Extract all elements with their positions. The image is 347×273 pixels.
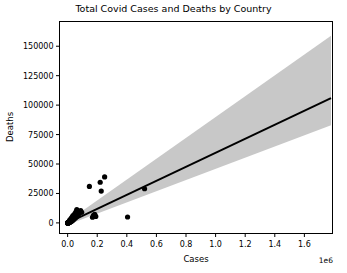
scatter-plot: 0.00.20.40.60.81.01.21.41.6 025000500007… [0,0,347,273]
x-axis-ticks: 0.00.20.40.60.81.01.21.41.6 [61,234,310,249]
y-tick-label: 150000 [23,42,54,51]
scatter-point [87,184,92,189]
y-axis-label: Deaths [5,111,15,142]
scatter-point [125,214,130,219]
x-tick-label: 0.0 [61,240,74,249]
scatter-point [102,174,107,179]
y-axis-ticks: 0250005000075000100000125000150000 [23,42,60,228]
y-tick-label: 100000 [23,101,54,110]
scatter-point [98,180,103,185]
x-tick-label: 1.4 [268,240,281,249]
y-tick-label: 25000 [28,189,53,198]
confidence-band-area [68,36,331,225]
chart-figure: Total Covid Cases and Deaths by Country … [0,0,347,273]
x-tick-label: 0.6 [150,240,163,249]
regression-line [68,98,331,223]
scatter-point [67,218,72,223]
scatter-point [99,189,104,194]
x-tick-label: 0.4 [120,240,133,249]
scatter-point [90,215,95,220]
y-tick-label: 125000 [23,72,54,81]
x-tick-label: 1.0 [209,240,222,249]
x-tick-label: 0.8 [180,240,193,249]
scatter-point [142,186,147,191]
x-tick-label: 1.6 [298,240,311,249]
y-tick-label: 50000 [28,160,53,169]
x-axis-label: Cases [183,254,209,264]
x-tick-label: 0.2 [91,240,104,249]
x-tick-label: 1.2 [239,240,252,249]
x-axis-offset-text: 1e6 [319,256,333,265]
y-tick-label: 75000 [28,131,53,140]
y-tick-label: 0 [48,219,53,228]
